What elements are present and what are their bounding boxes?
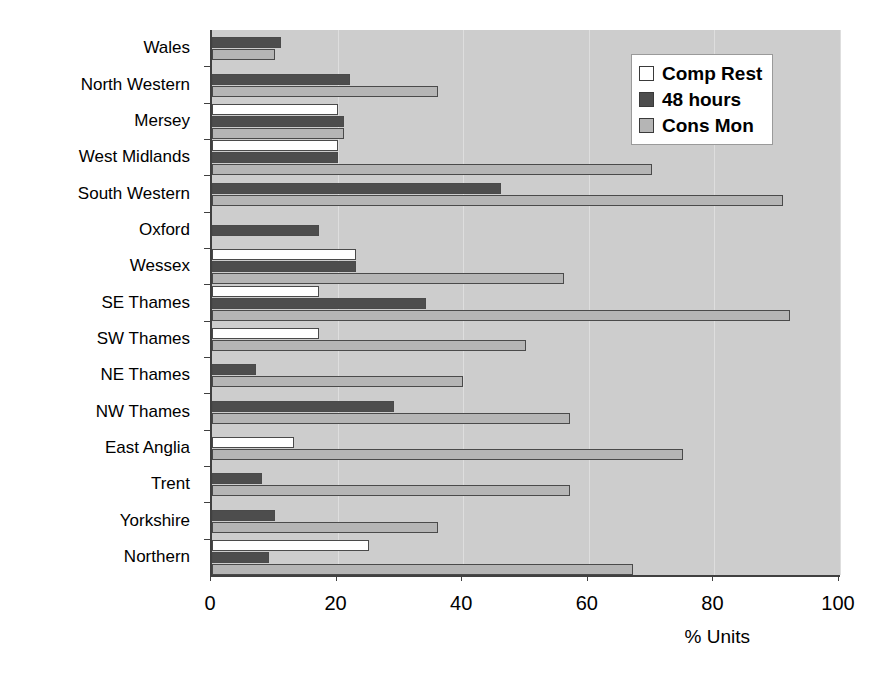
y-axis-label: Wales [143, 39, 190, 56]
x-axis-tick-label: 0 [204, 593, 215, 613]
x-axis-tick [336, 575, 337, 581]
bar-48-hours [212, 552, 269, 563]
legend-entry-comp-rest[interactable]: Comp Rest [639, 60, 762, 86]
bar-comp-rest [212, 140, 338, 151]
bar-group [212, 248, 840, 284]
x-axis-title: % Units [0, 626, 838, 648]
bar-comp-rest [212, 437, 294, 448]
y-axis-label: SE Thames [101, 294, 190, 311]
y-axis-tick [204, 539, 210, 540]
bar-cons-mon [212, 340, 526, 351]
y-axis-label: West Midlands [79, 148, 190, 165]
x-axis-tick-label: 20 [324, 593, 346, 613]
y-axis-label: NW Thames [96, 403, 190, 420]
bar-48-hours [212, 183, 501, 194]
bar-cons-mon [212, 413, 570, 424]
bar-group [212, 430, 840, 466]
y-axis-labels: WalesNorth WesternMerseyWest MidlandsSou… [0, 30, 200, 575]
legend-swatch-icon [639, 118, 654, 133]
y-axis-tick [204, 357, 210, 358]
bar-48-hours [212, 116, 344, 127]
bar-48-hours [212, 152, 338, 163]
bar-48-hours [212, 261, 356, 272]
bar-cons-mon [212, 49, 275, 60]
bar-48-hours [212, 401, 394, 412]
bar-48-hours [212, 74, 350, 85]
bar-48-hours [212, 364, 256, 375]
y-axis-tick [204, 66, 210, 67]
bar-comp-rest [212, 540, 369, 551]
bar-group [212, 393, 840, 429]
bar-cons-mon [212, 86, 438, 97]
y-axis-label: Trent [151, 475, 190, 492]
y-axis-tick [204, 321, 210, 322]
x-axis-tick [712, 575, 713, 581]
y-axis-tick [204, 175, 210, 176]
bar-chart: WalesNorth WesternMerseyWest MidlandsSou… [0, 0, 892, 691]
bar-group [212, 284, 840, 320]
legend-label: 48 hours [662, 90, 741, 109]
y-axis-label: North Western [81, 76, 190, 93]
y-axis-tick [204, 502, 210, 503]
y-axis-tick [204, 466, 210, 467]
gridline [840, 30, 841, 575]
y-axis-tick [204, 139, 210, 140]
y-axis-label: Northern [124, 548, 190, 565]
bar-group [212, 539, 840, 575]
x-axis-tick [587, 575, 588, 581]
legend-label: Cons Mon [662, 116, 754, 135]
y-axis-tick [204, 393, 210, 394]
bar-group [212, 466, 840, 502]
bar-cons-mon [212, 164, 652, 175]
x-axis-tick-label: 60 [576, 593, 598, 613]
bar-group [212, 321, 840, 357]
y-axis-label: SW Thames [97, 330, 190, 347]
x-axis-tick [838, 575, 839, 581]
y-axis-label: NE Thames [101, 366, 190, 383]
bar-cons-mon [212, 273, 564, 284]
y-axis-label: Wessex [130, 257, 190, 274]
x-axis-tick [210, 575, 211, 581]
bar-cons-mon [212, 522, 438, 533]
y-axis-tick [204, 103, 210, 104]
bar-48-hours [212, 37, 281, 48]
bar-group [212, 502, 840, 538]
bar-group [212, 175, 840, 211]
x-axis-tick [461, 575, 462, 581]
legend-entry-48-hours[interactable]: 48 hours [639, 86, 762, 112]
legend-label: Comp Rest [662, 64, 762, 83]
y-axis-tick [204, 212, 210, 213]
bar-48-hours [212, 473, 262, 484]
bar-cons-mon [212, 128, 344, 139]
bar-48-hours [212, 298, 426, 309]
bar-cons-mon [212, 564, 633, 575]
x-axis-tick-label: 40 [450, 593, 472, 613]
x-axis-tick-label: 100 [821, 593, 854, 613]
legend-swatch-icon [639, 66, 654, 81]
legend: Comp Rest48 hoursCons Mon [631, 54, 773, 145]
y-axis-label: East Anglia [105, 439, 190, 456]
bar-comp-rest [212, 328, 319, 339]
bar-48-hours [212, 225, 319, 236]
bar-comp-rest [212, 249, 356, 260]
legend-entry-cons-mon[interactable]: Cons Mon [639, 112, 762, 138]
y-axis-label: Mersey [134, 112, 190, 129]
bar-comp-rest [212, 104, 338, 115]
bar-cons-mon [212, 310, 790, 321]
x-axis-labels: 020406080100 [0, 585, 892, 615]
bar-group [212, 212, 840, 248]
bar-cons-mon [212, 195, 783, 206]
y-axis-label: Oxford [139, 221, 190, 238]
y-axis-label: South Western [78, 185, 190, 202]
bar-cons-mon [212, 485, 570, 496]
bar-comp-rest [212, 286, 319, 297]
bar-48-hours [212, 510, 275, 521]
x-axis-tick-label: 80 [701, 593, 723, 613]
y-axis-label: Yorkshire [120, 512, 190, 529]
bar-cons-mon [212, 449, 683, 460]
legend-swatch-icon [639, 92, 654, 107]
bar-cons-mon [212, 376, 463, 387]
y-axis-tick [204, 430, 210, 431]
y-axis-tick [204, 248, 210, 249]
bar-group [212, 357, 840, 393]
